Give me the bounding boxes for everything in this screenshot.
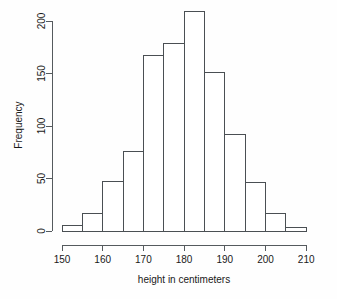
histogram-bar: [184, 12, 204, 231]
x-tick-label: 180: [176, 254, 193, 265]
histogram-canvas: 050100150200 150160170180190200210 Frequ…: [0, 0, 337, 299]
y-tick-label: 150: [36, 65, 47, 82]
x-tick-label: 200: [257, 254, 274, 265]
x-tick-label: 190: [216, 254, 233, 265]
histogram-bar: [143, 56, 163, 231]
x-tick-label: 160: [94, 254, 111, 265]
x-axis-title: height in centimeters: [138, 274, 230, 285]
y-axis-ticks: 050100150200: [36, 12, 53, 234]
x-tick-label: 170: [135, 254, 152, 265]
histogram-bar: [286, 228, 306, 231]
x-tick-label: 150: [54, 254, 71, 265]
histogram-bar: [164, 43, 184, 231]
histogram-bar: [82, 213, 102, 231]
x-tick-label: 210: [298, 254, 315, 265]
histogram-figure: 050100150200 150160170180190200210 Frequ…: [0, 0, 337, 299]
histogram-bar: [103, 182, 123, 231]
y-tick-label: 50: [36, 173, 47, 185]
histogram-bar: [245, 183, 265, 231]
histogram-bar: [266, 213, 286, 231]
x-axis-ticks: 150160170180190200210: [54, 245, 315, 265]
y-tick-label: 200: [36, 12, 47, 29]
y-axis-title: Frequency: [13, 101, 24, 148]
y-tick-label: 0: [36, 228, 47, 234]
y-tick-label: 100: [36, 117, 47, 134]
histogram-bar: [225, 134, 245, 231]
histogram-bars: [62, 12, 306, 231]
histogram-bar: [62, 226, 82, 231]
histogram-bar: [204, 72, 224, 231]
histogram-bar: [123, 151, 143, 231]
